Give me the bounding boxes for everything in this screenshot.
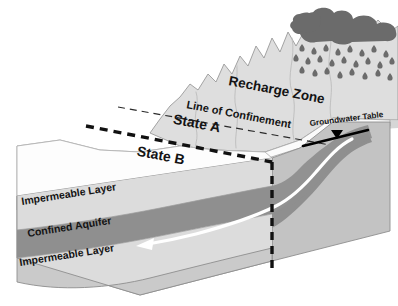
diagram-canvas: Recharge Zone Line of Confinement State … (0, 0, 398, 306)
aquifer-block-diagram: Recharge Zone Line of Confinement State … (0, 0, 398, 306)
